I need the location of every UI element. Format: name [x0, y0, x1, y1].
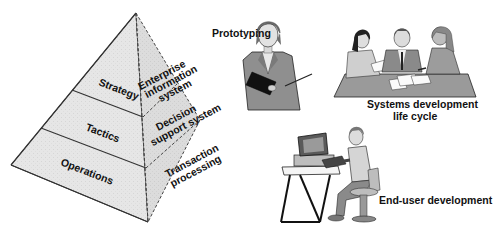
method-label-sdlc-line2: life cycle — [393, 110, 438, 122]
meeting-figure — [334, 27, 476, 97]
method-label-end-user: End-user development — [379, 194, 493, 206]
pyramid: Strategy Tactics Operations Enterprise i… — [11, 13, 226, 222]
illustration-canvas: Strategy Tactics Operations Enterprise i… — [0, 0, 498, 235]
computer-user-figure — [281, 127, 380, 222]
method-label-prototyping: Prototyping — [212, 27, 271, 39]
diagram: Strategy Tactics Operations Enterprise i… — [0, 0, 498, 235]
pyramid-left-face — [11, 13, 148, 222]
method-label-sdlc-line1: Systems development — [367, 98, 478, 110]
